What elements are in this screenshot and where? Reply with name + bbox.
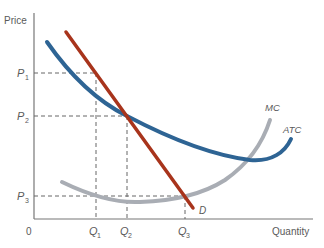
svg-text:2: 2 [25,117,29,124]
demand-label: D [199,205,206,216]
demand-line [66,32,193,208]
atc-curve [47,42,291,160]
svg-text:P: P [17,190,25,202]
svg-text:1: 1 [97,232,101,239]
q3-label: Q 3 [178,225,190,239]
q1-label: Q 1 [89,225,101,239]
p2-label: P 2 [17,110,29,124]
svg-text:2: 2 [128,232,132,239]
svg-text:1: 1 [25,74,29,81]
svg-text:P: P [17,110,25,122]
x-axis-label: Quantity [272,226,309,237]
origin-label: 0 [26,226,32,237]
diagram-canvas: Price Quantity 0 P 1 P 2 P 3 Q 1 Q 2 Q 3… [0,0,324,248]
mc-curve [62,120,270,202]
p1-label: P 1 [17,67,29,81]
p3-label: P 3 [17,190,29,204]
svg-text:3: 3 [25,197,29,204]
y-axis-label: Price [4,15,27,26]
q2-label: Q 2 [120,225,132,239]
atc-label: ATC [282,124,301,135]
mc-label: MC [265,102,280,113]
svg-text:P: P [17,67,25,79]
price-quantity-diagram: Price Quantity 0 P 1 P 2 P 3 Q 1 Q 2 Q 3… [0,0,324,248]
svg-text:3: 3 [186,232,190,239]
